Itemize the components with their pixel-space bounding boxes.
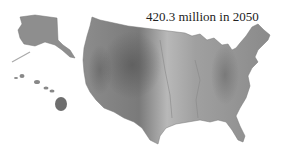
population-caption: 420.3 million in 2050 — [146, 9, 259, 25]
hawaii-shape — [14, 74, 67, 111]
alaska-shape — [12, 15, 75, 62]
contiguous-us-shape — [83, 17, 270, 144]
